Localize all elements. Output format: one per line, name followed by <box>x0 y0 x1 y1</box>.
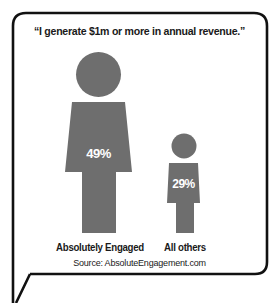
figure-head-icon <box>76 52 121 97</box>
category-label-all-others: All others <box>153 241 217 253</box>
figure-body-icon <box>167 163 200 233</box>
value-label-absolutely-engaged: 49% <box>65 146 132 161</box>
figure-absolutely-engaged <box>65 52 132 233</box>
figure-body-icon <box>65 102 132 233</box>
chart-title: “I generate $1m or more in annual revenu… <box>11 25 268 37</box>
figure-head-icon <box>172 134 197 159</box>
source-note: Source: AbsoluteEngagement.com <box>0 258 279 268</box>
category-label-absolutely-engaged: Absolutely Engaged <box>49 241 150 253</box>
value-label-all-others: 29% <box>167 177 200 191</box>
